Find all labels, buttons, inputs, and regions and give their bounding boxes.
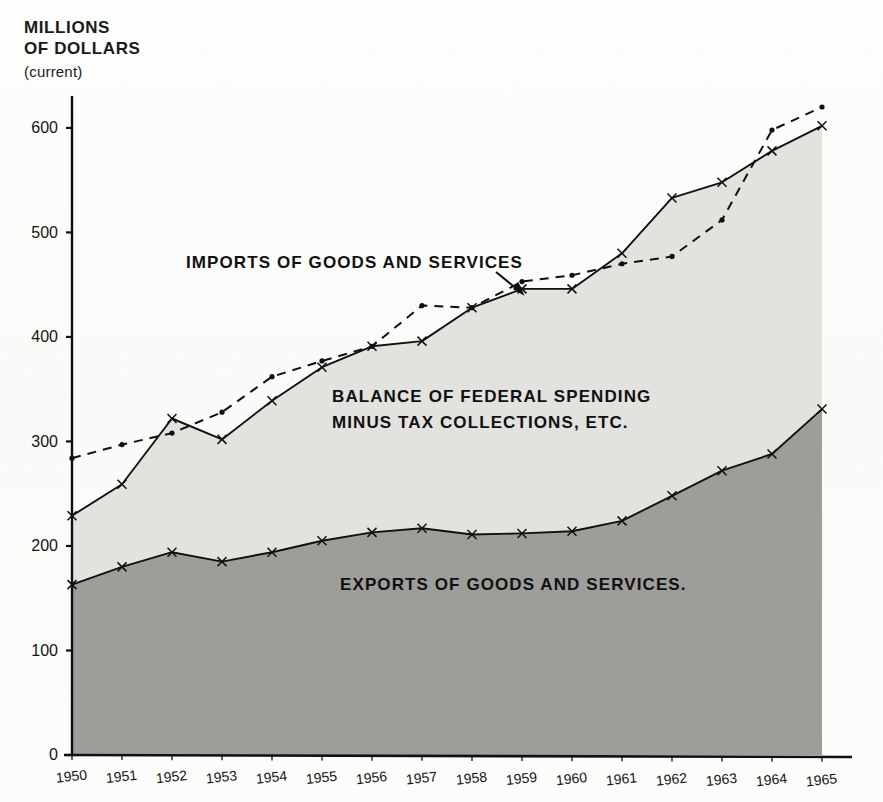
y-tick-label: 500	[31, 224, 58, 241]
data-point-marker	[469, 305, 474, 310]
x-tick-label: 1952	[155, 767, 188, 786]
data-point-marker	[719, 217, 724, 222]
x-tick-label: 1951	[105, 767, 138, 786]
data-point-marker	[769, 127, 774, 132]
label-exports: EXPORTS OF GOODS AND SERVICES.	[340, 575, 687, 594]
y-tick-label: 600	[31, 119, 58, 136]
x-tick-label: 1965	[805, 770, 838, 789]
x-tick-labels: 1950195119521953195419551956195719581959…	[55, 766, 838, 789]
x-tick-label: 1961	[605, 769, 638, 788]
label-imports: IMPORTS OF GOODS AND SERVICES	[186, 253, 523, 272]
label-balance-line1: BALANCE OF FEDERAL SPENDING	[332, 387, 651, 406]
chart-figure: MILLIONS OF DOLLARS (current) 0100200300…	[0, 0, 883, 802]
x-tick-label: 1953	[205, 767, 238, 786]
y-tick-label: 0	[49, 746, 58, 763]
x-axis-line	[64, 755, 852, 757]
x-tick-label: 1958	[455, 768, 488, 787]
data-point-marker	[169, 430, 174, 435]
x-tick-label: 1955	[305, 768, 338, 787]
y-tick-label: 100	[31, 642, 58, 659]
data-point-marker	[319, 358, 324, 363]
data-point-marker	[119, 442, 124, 447]
x-tick-label: 1950	[55, 766, 88, 785]
x-tick-label: 1960	[555, 769, 588, 788]
x-tick-label: 1962	[655, 769, 688, 788]
x-tick-label: 1964	[755, 770, 788, 789]
x-tick-label: 1954	[255, 767, 288, 786]
x-tick-label: 1957	[405, 768, 438, 787]
y-tick-label: 300	[31, 433, 58, 450]
y-tick-label: 200	[31, 537, 58, 554]
data-point-marker	[69, 456, 74, 461]
x-tick-label: 1963	[705, 770, 738, 789]
data-point-marker	[519, 279, 524, 284]
chart-plot-area: 0100200300400500600 19501951195219531954…	[0, 0, 883, 802]
y-tick-label: 400	[31, 328, 58, 345]
area-bands	[72, 126, 822, 755]
data-point-marker	[819, 104, 824, 109]
data-point-marker	[419, 303, 424, 308]
data-point-marker	[269, 374, 274, 379]
data-point-marker	[619, 261, 624, 266]
data-point-marker	[369, 344, 374, 349]
x-tick-label: 1956	[355, 768, 388, 787]
data-point-marker	[219, 410, 224, 415]
x-tick-label: 1959	[505, 769, 538, 788]
y-tick-labels: 0100200300400500600	[31, 119, 58, 763]
data-point-marker	[669, 254, 674, 259]
data-point-marker	[569, 273, 574, 278]
label-balance-line2: MINUS TAX COLLECTIONS, ETC.	[332, 413, 629, 432]
